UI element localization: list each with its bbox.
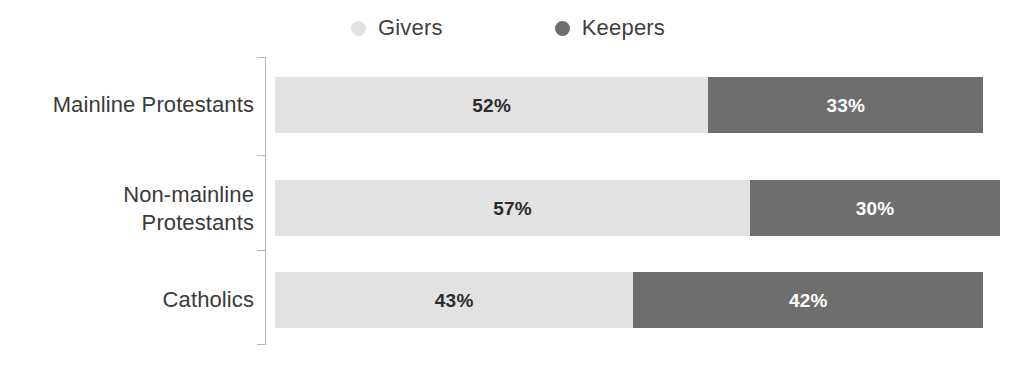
bar-value-label-givers: 52% [472, 96, 511, 115]
bar-segment-keepers[interactable]: 30% [750, 180, 1000, 236]
bar-segment-givers[interactable]: 52% [275, 77, 708, 133]
category-label: Mainline Protestants [53, 91, 254, 119]
axis-cap-bottom [257, 344, 266, 345]
bar-value-label-keepers: 33% [827, 96, 866, 115]
stacked-bar: 57% 30% [275, 180, 1000, 236]
chart-row-mainline-protestants: Mainline Protestants 52% 33% [0, 77, 1016, 133]
bar-value-label-givers: 43% [435, 291, 474, 310]
axis-cap-top [257, 57, 266, 58]
axis-tick-1 [257, 155, 266, 156]
stacked-bar: 52% 33% [275, 77, 983, 133]
chart-row-catholics: Catholics 43% 42% [0, 272, 1016, 328]
bar-segment-givers[interactable]: 57% [275, 180, 750, 236]
axis-tick-2 [257, 250, 266, 251]
plot-area: Mainline Protestants 52% 33% Non-mainlin… [0, 0, 1016, 371]
category-label: Non-mainline Protestants [123, 181, 254, 236]
bar-value-label-givers: 57% [493, 199, 532, 218]
bar-segment-keepers[interactable]: 42% [633, 272, 983, 328]
bar-value-label-keepers: 30% [856, 199, 895, 218]
chart-row-non-mainline-protestants: Non-mainline Protestants 57% 30% [0, 180, 1016, 236]
category-label: Catholics [163, 286, 254, 314]
bar-segment-givers[interactable]: 43% [275, 272, 633, 328]
stacked-bar: 43% 42% [275, 272, 983, 328]
bar-value-label-keepers: 42% [789, 291, 828, 310]
stacked-bar-chart: Givers Keepers Mainline Protestants 52% … [0, 0, 1016, 371]
bar-segment-keepers[interactable]: 33% [708, 77, 983, 133]
